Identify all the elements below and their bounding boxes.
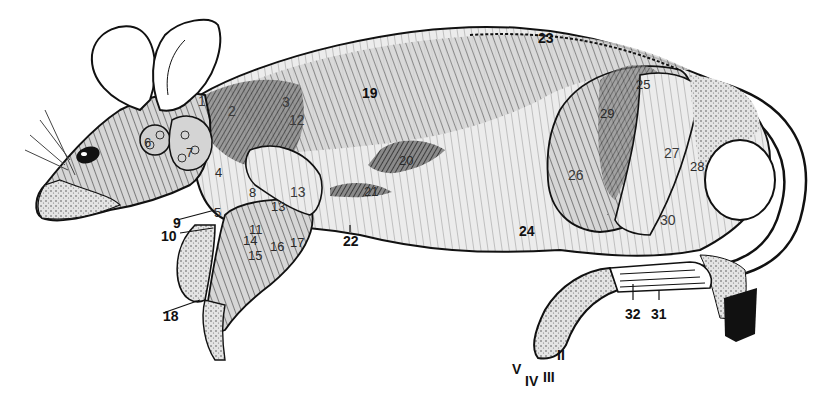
label-V: V — [512, 362, 521, 376]
label-25: 25 — [636, 78, 650, 91]
label-12: 12 — [289, 113, 305, 127]
label-20: 20 — [399, 154, 413, 167]
label-15: 15 — [248, 249, 262, 262]
label-II: II — [557, 348, 565, 362]
label-16: 16 — [270, 240, 284, 253]
label-2: 2 — [228, 104, 236, 118]
hind-foot — [534, 262, 711, 358]
mouse-drawing — [0, 0, 840, 410]
label-19: 19 — [362, 86, 378, 100]
tail-base — [705, 140, 775, 220]
label-14: 14 — [243, 234, 257, 247]
label-31: 31 — [651, 307, 667, 321]
label-21: 21 — [364, 185, 378, 198]
label-28: 28 — [690, 160, 704, 173]
gland-7 — [169, 116, 212, 170]
label-24: 24 — [519, 224, 535, 238]
label-III: III — [543, 370, 555, 384]
label-6: 6 — [144, 136, 151, 149]
label-8: 8 — [249, 186, 256, 199]
label-13a: 13 — [290, 185, 306, 199]
label-5: 5 — [214, 206, 221, 219]
label-29: 29 — [600, 107, 614, 120]
label-1: 1 — [198, 94, 206, 108]
label-22: 22 — [343, 234, 359, 248]
label-4: 4 — [215, 166, 222, 179]
label-18: 18 — [163, 309, 179, 323]
label-7: 7 — [186, 146, 193, 159]
label-23: 23 — [538, 31, 554, 45]
label-3: 3 — [282, 95, 290, 109]
label-27: 27 — [664, 146, 680, 160]
label-IV: IV — [525, 374, 538, 388]
head — [25, 20, 220, 221]
label-13b: 13 — [271, 200, 285, 213]
label-30: 30 — [660, 213, 676, 227]
label-10: 10 — [161, 229, 177, 243]
label-32: 32 — [625, 307, 641, 321]
label-26: 26 — [568, 168, 584, 182]
label-17: 17 — [290, 236, 304, 249]
mouse-musculature-illustration: 1234567891011121313141516171819202122232… — [0, 0, 840, 410]
ear-back — [92, 26, 155, 110]
